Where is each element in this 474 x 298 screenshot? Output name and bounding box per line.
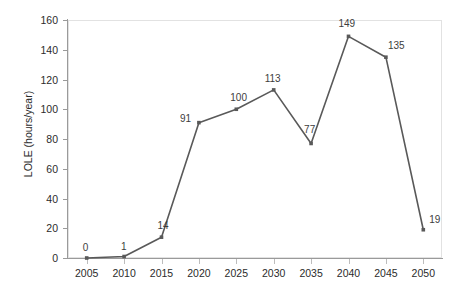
data-point-label: 149 bbox=[339, 19, 356, 29]
data-point-label: 1 bbox=[121, 242, 127, 252]
series-markers bbox=[85, 35, 425, 260]
data-point-label: 100 bbox=[230, 93, 247, 103]
data-point-marker bbox=[160, 235, 164, 239]
data-point-marker bbox=[197, 121, 201, 125]
lole-line-chart: LOLE (hours/year) 020406080100120140160 … bbox=[0, 0, 474, 298]
data-point-marker bbox=[309, 142, 313, 146]
data-point-label: 19 bbox=[429, 215, 440, 225]
data-point-label: 91 bbox=[180, 114, 191, 124]
data-point-label: 135 bbox=[388, 41, 405, 51]
data-point-marker bbox=[422, 228, 426, 232]
data-point-marker bbox=[85, 256, 89, 260]
data-point-marker bbox=[235, 107, 239, 111]
data-point-marker bbox=[347, 35, 351, 39]
series-polyline bbox=[87, 36, 424, 258]
data-point-label: 77 bbox=[304, 125, 315, 135]
data-point-label: 113 bbox=[265, 74, 281, 84]
data-point-marker bbox=[272, 88, 276, 92]
data-point-label: 0 bbox=[83, 243, 89, 253]
data-point-marker bbox=[122, 255, 126, 259]
data-point-marker bbox=[384, 55, 388, 59]
data-point-label: 14 bbox=[158, 221, 169, 231]
